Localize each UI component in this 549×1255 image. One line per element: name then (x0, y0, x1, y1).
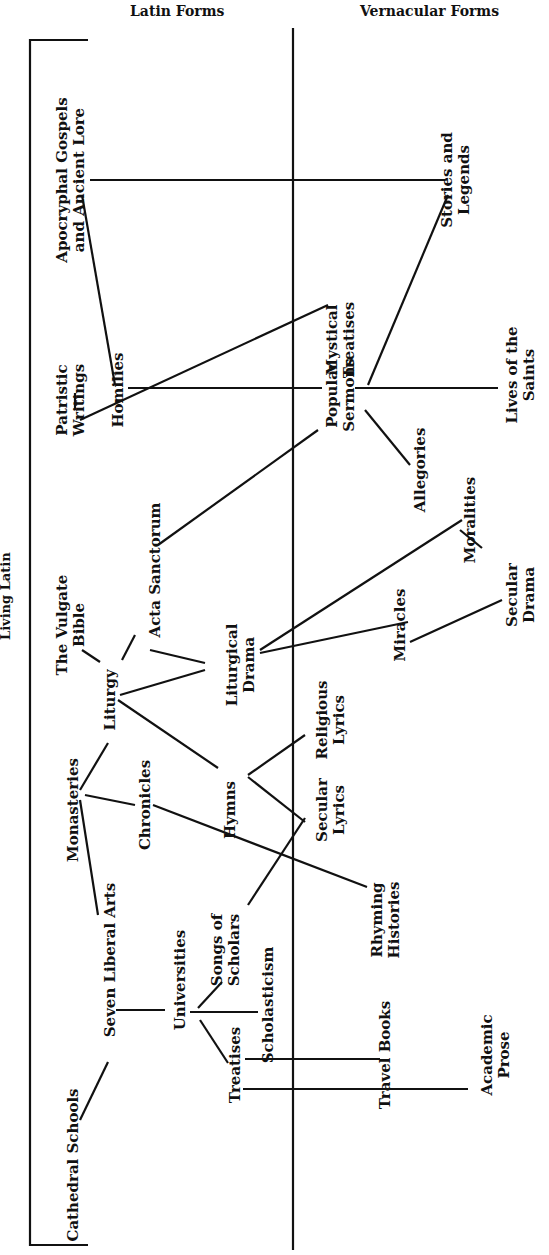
node-vulgate: The VulgateBible (53, 575, 88, 676)
svg-text:Apocryphal Gospels: Apocryphal Gospels (53, 97, 71, 263)
node-hymns: Hymns (221, 781, 239, 839)
connector-line (82, 650, 100, 662)
svg-text:Treatises: Treatises (226, 1027, 244, 1103)
header-vernacular-forms: Vernacular Forms (359, 3, 499, 19)
node-secular-lyrics: SecularLyrics (313, 777, 348, 842)
node-patristic: PatristicWritings (53, 364, 88, 437)
svg-text:The Vulgate: The Vulgate (53, 575, 71, 676)
svg-text:Songs of: Songs of (208, 912, 226, 986)
svg-text:Bible: Bible (70, 603, 88, 647)
svg-text:Popular: Popular (323, 361, 341, 428)
connector-line (260, 520, 462, 650)
node-travel-books: Travel Books (376, 1001, 394, 1109)
svg-text:Monasteries: Monasteries (64, 758, 82, 862)
node-apocryphal: Apocryphal Gospelsand Ancient Lore (53, 97, 88, 263)
connector-line (410, 600, 502, 642)
svg-text:Secular: Secular (313, 777, 331, 842)
svg-text:Sermons: Sermons (340, 358, 358, 432)
connector-line (368, 195, 448, 385)
connector-line (122, 635, 135, 660)
svg-text:Hymns: Hymns (221, 781, 239, 839)
connector-line (248, 818, 305, 905)
svg-text:Patristic: Patristic (53, 364, 71, 435)
svg-text:Scholasticism: Scholasticism (259, 947, 277, 1064)
svg-text:Religious: Religious (313, 681, 331, 760)
svg-text:Travel Books: Travel Books (376, 1001, 394, 1109)
node-songs-scholars: Songs ofScholars (208, 912, 243, 986)
node-stories: Stories andLegends (438, 132, 473, 228)
svg-text:Acta Sanctorum: Acta Sanctorum (146, 502, 164, 638)
living-latin-label: Living Latin (0, 552, 13, 640)
svg-text:Writings: Writings (70, 364, 88, 437)
svg-text:Rhyming: Rhyming (368, 882, 386, 958)
svg-text:Homilies: Homilies (109, 352, 127, 427)
literary-forms-diagram: Latin Forms Vernacular Forms Living Lati… (0, 0, 549, 1255)
svg-text:Miracles: Miracles (391, 589, 409, 662)
node-secular-drama: SecularDrama (503, 562, 538, 627)
connector-line (80, 1062, 108, 1120)
node-homilies: Homilies (109, 352, 127, 427)
connector-line (85, 795, 135, 805)
svg-text:Cathedral Schools: Cathedral Schools (64, 1088, 82, 1241)
node-allegories: Allegories (411, 428, 429, 514)
svg-text:Histories: Histories (385, 882, 403, 959)
node-academic-prose: AcademicProse (478, 1014, 513, 1096)
svg-text:Legends: Legends (455, 145, 473, 215)
svg-text:Chronicles: Chronicles (136, 760, 154, 850)
svg-text:Liturgical: Liturgical (223, 623, 241, 706)
connector-line (248, 735, 305, 775)
svg-text:Allegories: Allegories (411, 428, 429, 514)
svg-text:Drama: Drama (240, 637, 258, 694)
svg-text:Prose: Prose (495, 1031, 513, 1078)
node-liturgy: Liturgy (101, 668, 119, 730)
svg-text:Moralities: Moralities (461, 477, 479, 563)
node-popular-sermons: PopularSermons (323, 358, 358, 432)
connector-line (200, 1020, 228, 1063)
svg-text:and Ancient Lore: and Ancient Lore (70, 108, 88, 252)
svg-text:Scholars: Scholars (225, 914, 243, 987)
node-rhyming-histories: RhymingHistories (368, 882, 403, 959)
svg-text:Seven Liberal Arts: Seven Liberal Arts (101, 883, 119, 1038)
header-latin-forms: Latin Forms (130, 3, 224, 19)
svg-text:Stories and: Stories and (438, 132, 456, 228)
connector-line (150, 650, 205, 663)
node-moralities: Moralities (461, 477, 479, 563)
node-seven-liberal-arts: Seven Liberal Arts (101, 883, 119, 1038)
node-scholasticism: Scholasticism (259, 947, 277, 1064)
node-chronicles: Chronicles (136, 760, 154, 850)
node-treatises: Treatises (226, 1027, 244, 1103)
connector-line (118, 700, 218, 768)
svg-text:Drama: Drama (520, 567, 538, 624)
connector-line (365, 410, 410, 465)
svg-text:Academic: Academic (478, 1014, 496, 1096)
node-miracles: Miracles (391, 589, 409, 662)
svg-text:Saints: Saints (520, 349, 538, 402)
connector-lines (75, 180, 502, 1120)
svg-text:Lyrics: Lyrics (330, 695, 348, 745)
node-cathedral-schools: Cathedral Schools (64, 1088, 82, 1241)
svg-text:Secular: Secular (503, 562, 521, 627)
node-labels: Apocryphal Gospelsand Ancient LoreStorie… (53, 97, 538, 1241)
connector-line (260, 622, 408, 653)
connector-line (248, 777, 305, 822)
node-monasteries: Monasteries (64, 758, 82, 862)
node-universities: Universities (171, 930, 189, 1031)
svg-text:Universities: Universities (171, 930, 189, 1031)
node-lives: Lives of theSaints (503, 326, 538, 423)
svg-text:Lyrics: Lyrics (330, 785, 348, 835)
node-acta: Acta Sanctorum (146, 502, 164, 638)
connector-line (80, 743, 108, 790)
node-religious-lyrics: ReligiousLyrics (313, 681, 348, 760)
connector-line (80, 800, 98, 915)
svg-text:Liturgy: Liturgy (101, 668, 119, 730)
svg-text:Lives of the: Lives of the (503, 326, 521, 423)
connector-line (120, 670, 205, 695)
node-liturgical-drama: LiturgicalDrama (223, 623, 258, 706)
